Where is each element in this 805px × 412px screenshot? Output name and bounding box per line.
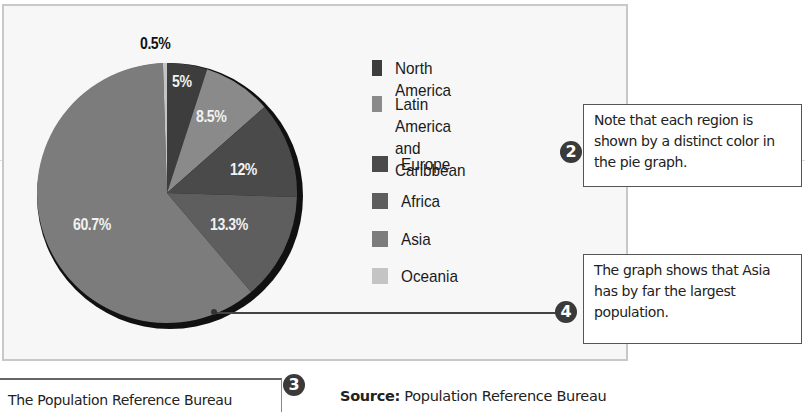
legend-item-africa: Africa xyxy=(372,191,444,213)
leader-dot xyxy=(211,309,217,315)
legend-swatch xyxy=(372,268,388,284)
label-latin-america: 8.5% xyxy=(196,108,226,126)
callout-4-leader-line xyxy=(214,312,569,314)
legend-item-asia: Asia xyxy=(372,229,434,251)
legend-swatch xyxy=(372,231,388,247)
label-africa: 13.3% xyxy=(210,216,248,234)
callout-4-text: The graph shows that Asia has by far the… xyxy=(594,262,770,320)
legend-label: Asia xyxy=(401,229,431,251)
callout-3-text: The Population Reference Bureau xyxy=(8,392,232,408)
label-europe: 12% xyxy=(230,161,257,179)
callout-4-box: The graph shows that Asia has by far the… xyxy=(583,254,802,344)
callout-3-badge: 3 xyxy=(283,374,305,396)
callout-2-box: Note that each region is shown by a dist… xyxy=(583,104,802,187)
source-text: Population Reference Bureau xyxy=(400,388,606,404)
legend-label: Europe xyxy=(401,154,450,176)
legend-swatch xyxy=(372,156,388,172)
legend-label: Africa xyxy=(401,191,440,213)
label-north-america: 5% xyxy=(172,73,191,91)
callout-2-text: Note that each region is shown by a dist… xyxy=(594,112,775,170)
pie-slices xyxy=(37,63,297,323)
source-note: Source: Population Reference Bureau xyxy=(340,388,606,404)
callout-4-badge: 4 xyxy=(555,301,577,323)
callout-2-badge: 2 xyxy=(560,141,582,163)
label-asia: 60.7% xyxy=(73,216,111,234)
label-oceania: 0.5% xyxy=(140,35,170,53)
source-label: Source: xyxy=(340,388,400,404)
legend-swatch xyxy=(372,96,382,112)
legend-item-oceania: Oceania xyxy=(372,266,464,288)
legend-swatch xyxy=(372,60,382,76)
legend-swatch xyxy=(372,193,388,209)
legend-item-europe: Europe xyxy=(372,154,456,176)
legend-label: Oceania xyxy=(401,266,458,288)
